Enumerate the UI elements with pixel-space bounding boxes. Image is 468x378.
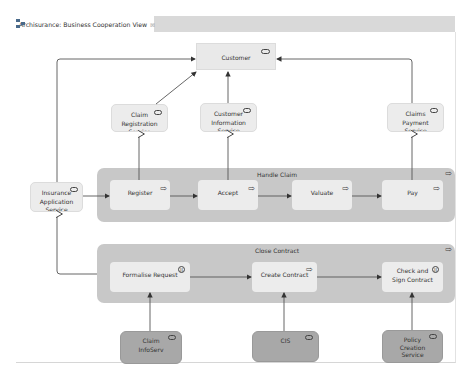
service-icon — [430, 108, 438, 113]
customer-information-label: Customer Information Service — [201, 110, 256, 132]
role-customer[interactable]: Customer — [196, 43, 276, 70]
process-icon: ⇨ — [445, 170, 452, 178]
close-contract-title: Close Contract — [255, 247, 299, 256]
process-register-label: Register — [128, 189, 153, 196]
process-accept-label: Accept — [218, 189, 238, 196]
role-icon — [261, 49, 270, 54]
service-icon — [243, 108, 251, 113]
process-register[interactable]: Register ⇨ — [110, 180, 170, 210]
interaction-icon: || — [432, 266, 439, 273]
process-icon: ⇨ — [445, 246, 452, 254]
close-icon[interactable]: ⊠ — [150, 21, 155, 28]
interaction-check-sign-contract[interactable]: Check and Sign Contract || — [382, 262, 443, 292]
service-icon — [168, 335, 176, 340]
process-icon: ⇨ — [160, 185, 167, 193]
process-icon: ⇨ — [433, 185, 440, 193]
claims-payment-label: Claims Payment Service — [388, 110, 443, 132]
interaction-icon: || — [178, 266, 185, 273]
service-claim-registration[interactable]: Claim Registration Service — [111, 104, 168, 132]
service-customer-information[interactable]: Customer Information Service — [200, 103, 257, 132]
service-insurance-application[interactable]: Insurance Application Service — [30, 182, 83, 212]
process-pay-label: Pay — [407, 189, 418, 196]
process-accept[interactable]: Accept ⇨ — [198, 180, 258, 210]
process-valuate-label: Valuate — [311, 189, 334, 196]
service-claims-payment[interactable]: Claims Payment Service — [387, 103, 444, 132]
process-valuate[interactable]: Valuate ⇨ — [292, 180, 352, 210]
editor-tab-bar: Archisurance: Business Cooperation View … — [14, 16, 455, 32]
tech-service-cis[interactable]: CIS — [252, 331, 319, 362]
service-icon — [305, 335, 313, 340]
policy-creation-label: Policy Creation Service — [383, 336, 442, 359]
tech-service-claim-infoserv[interactable]: Claim InfoServ — [120, 331, 182, 364]
formalise-request-label: Formalise Request — [122, 271, 177, 278]
process-icon: ⇨ — [342, 185, 349, 193]
service-icon — [429, 334, 437, 339]
process-icon: ⇨ — [306, 266, 313, 274]
tab-business-cooperation-view[interactable]: Archisurance: Business Cooperation View … — [14, 16, 154, 32]
cis-label: CIS — [281, 337, 291, 344]
handle-claim-title: Handle Claim — [257, 171, 297, 180]
process-icon: ⇨ — [248, 185, 255, 193]
interaction-formalise-request[interactable]: Formalise Request || — [110, 262, 190, 292]
service-icon — [70, 187, 78, 192]
tech-service-policy-creation[interactable]: Policy Creation Service — [382, 330, 443, 363]
process-pay[interactable]: Pay ⇨ — [382, 180, 443, 210]
insurance-application-label: Insurance Application Service — [31, 189, 82, 212]
tab-title: Archisurance: Business Cooperation View — [19, 21, 147, 28]
service-icon — [154, 110, 162, 115]
create-contract-label: Create Contract — [261, 271, 309, 278]
customer-label: Customer — [221, 54, 250, 61]
